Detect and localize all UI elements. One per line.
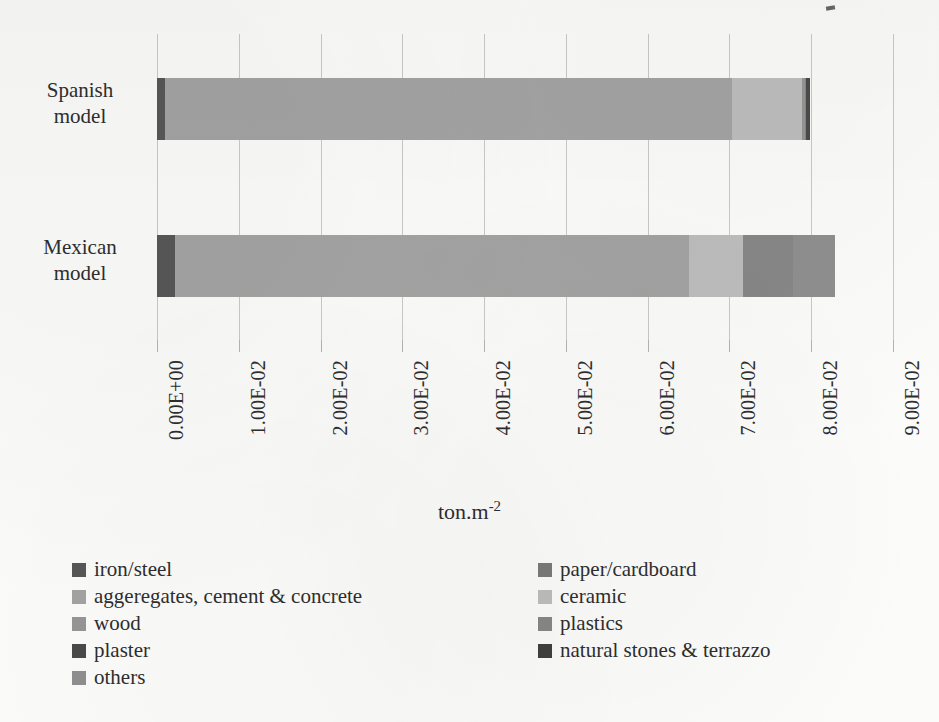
legend-item-ceramic[interactable]: ceramic xyxy=(538,583,771,610)
bar-segment-plastics[interactable] xyxy=(743,235,793,297)
legend-swatch-icon xyxy=(538,563,552,577)
legend-item-paper-cardboard[interactable]: paper/cardboard xyxy=(538,556,771,583)
legend-label: plastics xyxy=(560,611,623,636)
legend-label: ceramic xyxy=(560,584,626,609)
legend-label: paper/cardboard xyxy=(560,557,696,582)
gridline-9 xyxy=(893,34,894,340)
legend-column-right: paper/cardboardceramicplasticsnatural st… xyxy=(538,556,771,664)
tick-mark-1 xyxy=(239,340,240,352)
tick-mark-7 xyxy=(729,340,730,352)
x-tick-label-2: 2.00E-02 xyxy=(329,360,352,435)
legend-swatch-icon xyxy=(538,590,552,604)
tick-mark-6 xyxy=(648,340,649,352)
bar-segment-plaster[interactable] xyxy=(806,78,810,140)
bar-segment-others[interactable] xyxy=(793,235,835,297)
legend-swatch-icon xyxy=(72,563,86,577)
x-tick-label-7: 7.00E-02 xyxy=(737,360,760,435)
legend-swatch-icon xyxy=(72,590,86,604)
bar-segment-iron-steel[interactable] xyxy=(157,78,165,140)
bar-mexican-model[interactable] xyxy=(157,235,835,297)
legend-label: others xyxy=(94,665,145,690)
legend-label: wood xyxy=(94,611,141,636)
legend-swatch-icon xyxy=(538,644,552,658)
x-tick-label-8: 8.00E-02 xyxy=(819,360,842,435)
legend-item-others[interactable]: others xyxy=(72,664,362,691)
x-axis-title-base: ton.m xyxy=(438,499,489,524)
bar-segment-iron-steel[interactable] xyxy=(157,235,175,297)
scan-speck-artifact xyxy=(826,5,836,10)
legend-swatch-icon xyxy=(72,617,86,631)
tick-mark-3 xyxy=(402,340,403,352)
x-tick-label-5: 5.00E-02 xyxy=(574,360,597,435)
legend-swatch-icon xyxy=(72,671,86,685)
tick-mark-4 xyxy=(484,340,485,352)
x-tick-label-4: 4.00E-02 xyxy=(492,360,515,435)
tick-mark-2 xyxy=(321,340,322,352)
legend-item-wood[interactable]: wood xyxy=(72,610,362,637)
category-label-line: Mexican xyxy=(10,235,150,261)
x-tick-label-0: 0.00E+00 xyxy=(165,360,188,440)
category-label-line: model xyxy=(10,104,150,130)
x-tick-label-3: 3.00E-02 xyxy=(410,360,433,435)
tick-mark-8 xyxy=(811,340,812,352)
x-tick-label-1: 1.00E-02 xyxy=(247,360,270,435)
legend-item-natural-stones-terrazzo[interactable]: natural stones & terrazzo xyxy=(538,637,771,664)
legend-swatch-icon xyxy=(72,644,86,658)
bar-segment-aggeregates-cement-concrete[interactable] xyxy=(165,78,732,140)
legend-label: iron/steel xyxy=(94,557,172,582)
x-tick-label-9: 9.00E-02 xyxy=(901,360,924,435)
x-axis-title: ton.m-2 xyxy=(0,498,939,525)
tick-mark-0 xyxy=(157,340,158,352)
legend-label: natural stones & terrazzo xyxy=(560,638,771,663)
x-tick-label-6: 6.00E-02 xyxy=(656,360,679,435)
category-label-line: Spanish xyxy=(10,78,150,104)
legend-item-aggeregates-cement-concrete[interactable]: aggeregates, cement & concrete xyxy=(72,583,362,610)
legend-column-left: iron/steelaggeregates, cement & concrete… xyxy=(72,556,362,691)
legend-item-iron-steel[interactable]: iron/steel xyxy=(72,556,362,583)
tick-mark-9 xyxy=(893,340,894,352)
bar-spanish-model[interactable] xyxy=(157,78,810,140)
category-label-mexican-model: Mexican model xyxy=(10,235,150,286)
legend-item-plaster[interactable]: plaster xyxy=(72,637,362,664)
tick-mark-5 xyxy=(566,340,567,352)
bar-segment-aggeregates-cement-concrete[interactable] xyxy=(175,235,689,297)
x-axis-title-exponent: -2 xyxy=(489,498,501,514)
legend-label: plaster xyxy=(94,638,150,663)
plot-area xyxy=(157,34,893,340)
legend-item-plastics[interactable]: plastics xyxy=(538,610,771,637)
bar-segment-ceramic[interactable] xyxy=(689,235,743,297)
category-label-spanish-model: Spanish model xyxy=(10,78,150,129)
legend-swatch-icon xyxy=(538,617,552,631)
legend-label: aggeregates, cement & concrete xyxy=(94,584,362,609)
bar-segment-ceramic[interactable] xyxy=(732,78,802,140)
category-label-line: model xyxy=(10,261,150,287)
